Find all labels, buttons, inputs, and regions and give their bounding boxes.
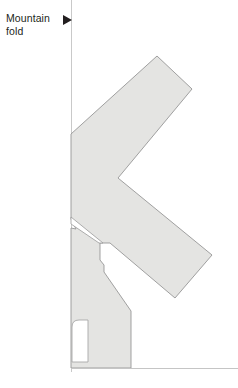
right-triangle-arrow-icon — [62, 14, 73, 26]
rounded-cutout — [72, 320, 88, 362]
legend: Mountain fold — [6, 12, 73, 38]
figure-canvas: Mountain fold — [0, 0, 238, 388]
legend-label: Mountain fold — [6, 12, 58, 38]
origami-fold-diagram — [0, 0, 238, 388]
paper-silhouette — [71, 56, 212, 368]
